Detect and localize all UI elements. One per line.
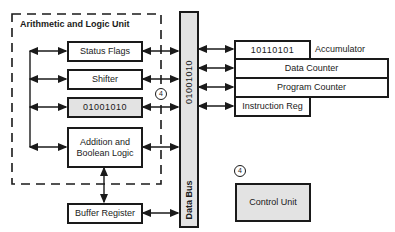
buffer-register-label: Buffer Register bbox=[75, 208, 135, 219]
control-unit-block: Control Unit bbox=[235, 183, 311, 222]
addition-logic-label: Addition and Boolean Logic bbox=[75, 137, 135, 159]
alu-register-block: 01001010 bbox=[67, 97, 143, 118]
status-flags-label: Status Flags bbox=[80, 46, 130, 57]
accumulator-label: Accumulator bbox=[315, 44, 365, 54]
data-bus-label: Data Bus bbox=[184, 180, 194, 219]
shifter-block: Shifter bbox=[67, 69, 143, 90]
step-marker-alu: 4 bbox=[155, 88, 167, 100]
program-counter-block: Program Counter bbox=[234, 77, 389, 98]
status-flags-block: Status Flags bbox=[67, 41, 143, 62]
alu-title: Arithmetic and Logic Unit bbox=[20, 19, 130, 29]
alu-register-value: 01001010 bbox=[83, 102, 127, 113]
program-counter-label: Program Counter bbox=[277, 82, 346, 93]
instruction-reg-label: Instruction Reg bbox=[242, 101, 303, 112]
data-bus-value: 01001010 bbox=[184, 60, 194, 104]
addition-logic-block: Addition and Boolean Logic bbox=[67, 127, 143, 168]
data-counter-block: Data Counter bbox=[234, 58, 389, 79]
control-unit-label: Control Unit bbox=[249, 197, 297, 208]
step-marker-control: 4 bbox=[234, 165, 246, 177]
instruction-reg-block: Instruction Reg bbox=[234, 96, 311, 117]
accumulator-value: 10110101 bbox=[251, 45, 294, 56]
buffer-register-block: Buffer Register bbox=[67, 203, 143, 224]
accumulator-block: 10110101 bbox=[234, 40, 311, 60]
data-counter-label: Data Counter bbox=[285, 63, 339, 74]
shifter-label: Shifter bbox=[92, 74, 118, 85]
